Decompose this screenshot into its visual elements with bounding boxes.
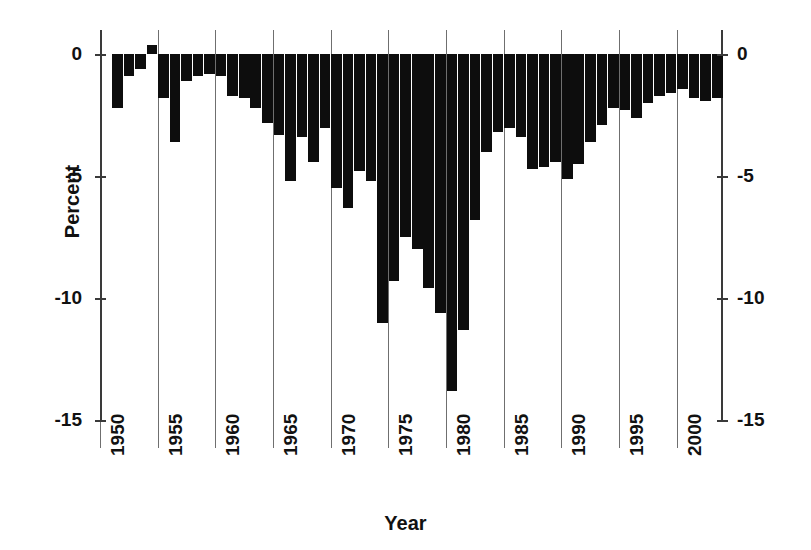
bar — [573, 54, 584, 164]
y-axis-tick-right — [717, 298, 728, 300]
y-axis-tick-left — [95, 420, 106, 422]
y-axis-label-left: 0 — [22, 44, 82, 63]
bar — [204, 54, 215, 74]
x-axis-label: 1950 — [108, 414, 127, 456]
y-axis-label-right: -10 — [737, 288, 797, 307]
x-axis-label: 1980 — [454, 414, 473, 456]
bar — [181, 54, 192, 81]
bar — [585, 54, 596, 142]
x-axis-label: 1975 — [396, 414, 415, 456]
bar — [620, 54, 631, 110]
bar — [239, 54, 250, 98]
bar — [366, 54, 377, 181]
bar — [643, 54, 654, 103]
x-gridline — [677, 30, 678, 420]
y-axis-label-right: -5 — [737, 166, 797, 185]
bar — [377, 54, 388, 322]
y-axis-tick-right — [717, 420, 728, 422]
x-axis-label: 1985 — [512, 414, 531, 456]
bar — [654, 54, 665, 95]
bar — [550, 54, 561, 161]
x-axis-tick — [388, 420, 389, 448]
y-axis-tick-left — [95, 176, 106, 178]
bar — [597, 54, 608, 125]
y-axis-tick-right — [717, 176, 728, 178]
x-axis-label: 2000 — [685, 414, 704, 456]
bar — [158, 54, 169, 98]
bar — [193, 54, 204, 76]
x-axis-tick — [331, 420, 332, 448]
bar — [354, 54, 365, 171]
bar — [389, 54, 400, 281]
bar — [135, 54, 146, 69]
x-axis-tick — [100, 420, 101, 448]
bar — [631, 54, 642, 117]
plot-area — [100, 30, 723, 420]
bar — [308, 54, 319, 161]
bar — [124, 54, 135, 76]
bar — [458, 54, 469, 329]
y-axis-tick-left — [95, 298, 106, 300]
y-axis-left-line — [100, 30, 102, 420]
x-axis-tick — [619, 420, 620, 448]
bar — [112, 54, 123, 108]
bar — [470, 54, 481, 220]
bar — [527, 54, 538, 169]
y-axis-label-left: -5 — [22, 166, 82, 185]
x-axis-tick — [677, 420, 678, 448]
bar — [297, 54, 308, 137]
bar — [504, 54, 515, 127]
bar — [516, 54, 527, 137]
x-axis-label: 1990 — [569, 414, 588, 456]
x-axis-tick — [504, 420, 505, 448]
bar — [262, 54, 273, 122]
x-axis-label: 1955 — [166, 414, 185, 456]
bar — [435, 54, 446, 312]
x-axis-tick — [561, 420, 562, 448]
x-axis-title: Year — [0, 512, 811, 535]
y-axis-tick-right — [717, 54, 728, 56]
y-axis-label-left: -10 — [22, 288, 82, 307]
bar — [216, 54, 227, 76]
bar — [423, 54, 434, 288]
bar — [320, 54, 331, 127]
y-axis-label-right: 0 — [737, 44, 797, 63]
bar — [285, 54, 296, 181]
bar — [539, 54, 550, 166]
bar — [227, 54, 238, 95]
x-gridline — [215, 30, 216, 420]
bar — [562, 54, 573, 178]
bar — [608, 54, 619, 108]
bar — [170, 54, 181, 142]
x-axis-tick — [446, 420, 447, 448]
bar — [689, 54, 700, 98]
bar — [147, 45, 158, 55]
bar — [447, 54, 458, 390]
y-axis-tick-left — [95, 54, 106, 56]
bar — [274, 54, 285, 134]
bar — [493, 54, 504, 132]
x-axis-label: 1960 — [223, 414, 242, 456]
bar — [700, 54, 711, 100]
x-axis-tick — [215, 420, 216, 448]
y-axis-label-right: -15 — [737, 410, 797, 429]
bar — [666, 54, 677, 93]
y-axis-label-left: -15 — [22, 410, 82, 429]
x-axis-tick — [273, 420, 274, 448]
bar — [481, 54, 492, 152]
bar — [412, 54, 423, 249]
bar — [250, 54, 261, 108]
x-axis-tick — [158, 420, 159, 448]
bar — [331, 54, 342, 188]
bar — [712, 54, 723, 98]
x-axis-label: 1970 — [339, 414, 358, 456]
bar — [400, 54, 411, 237]
bar — [343, 54, 354, 208]
chart-figure: Percent Year 195019551960196519701975198… — [0, 0, 811, 550]
x-axis-label: 1965 — [281, 414, 300, 456]
bar — [677, 54, 688, 88]
x-axis-label: 1995 — [627, 414, 646, 456]
